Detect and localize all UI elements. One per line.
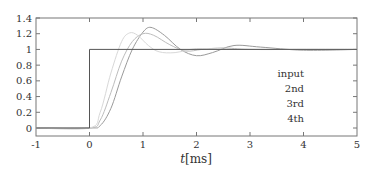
y-tick-label: 0.6 (16, 75, 32, 86)
legend-label-3rd: 3rd (286, 98, 304, 109)
plot-curves (36, 27, 357, 129)
legend: input2nd3rd4th (278, 68, 305, 125)
y-tick-label: 0.8 (16, 60, 32, 71)
x-tick-label: 2 (193, 139, 199, 150)
y-tick-label: 1.2 (16, 28, 32, 39)
x-tick-label: 1 (140, 139, 146, 150)
x-tick-label: -1 (31, 139, 41, 150)
x-tick-label: 5 (354, 139, 360, 150)
y-tick-label: 0 (26, 123, 32, 134)
y-tick-label: 0.4 (16, 91, 32, 102)
series-4th (36, 27, 357, 128)
legend-label-4th: 4th (287, 113, 304, 124)
x-tick-label: 4 (300, 139, 306, 150)
series-3rd (36, 33, 357, 128)
y-tick-label: 1.4 (16, 13, 32, 24)
x-axis-label: t[ms] (180, 152, 212, 166)
plot-frame (36, 18, 357, 136)
x-tick-label: 3 (247, 139, 253, 150)
y-tick-label: 1 (26, 44, 32, 55)
step-response-chart: -101234500.20.40.60.811.21.4 input2nd3rd… (0, 0, 374, 177)
series-input (36, 49, 357, 128)
legend-label-input: input (278, 68, 305, 79)
y-tick-label: 0.2 (16, 107, 32, 118)
legend-label-2nd: 2nd (285, 83, 305, 94)
series-2nd (36, 33, 357, 130)
x-tick-label: 0 (86, 139, 92, 150)
